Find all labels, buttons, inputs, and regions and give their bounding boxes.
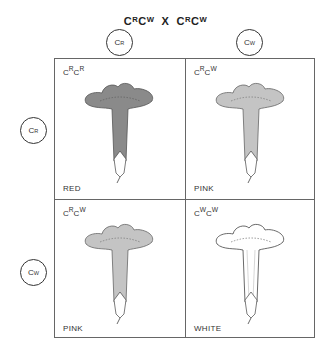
- pink-flower-icon: [80, 214, 160, 324]
- cross-title: CRCW X CRCW: [0, 15, 331, 27]
- column-allele-white: CW: [236, 29, 263, 56]
- pink-flower-icon: [211, 73, 291, 183]
- cell-white: CWCW WHITE: [186, 200, 316, 339]
- phenotype-label: RED: [63, 184, 81, 193]
- phenotype-label: WHITE: [194, 324, 221, 333]
- cell-pink-bottom: CRCW PINK: [55, 200, 185, 339]
- row-allele-red: CR: [20, 117, 47, 144]
- white-flower-icon: [211, 214, 291, 324]
- cell-pink-top: CRCW PINK: [186, 59, 316, 199]
- column-allele-red: CR: [106, 29, 133, 56]
- phenotype-label: PINK: [194, 184, 214, 193]
- phenotype-label: PINK: [63, 324, 83, 333]
- punnett-square: CRCR RED CRCW PINK CRCW PINK CWC: [54, 58, 315, 338]
- red-flower-icon: [80, 73, 160, 183]
- cell-red: CRCR RED: [55, 59, 185, 199]
- row-allele-white: CW: [20, 259, 47, 286]
